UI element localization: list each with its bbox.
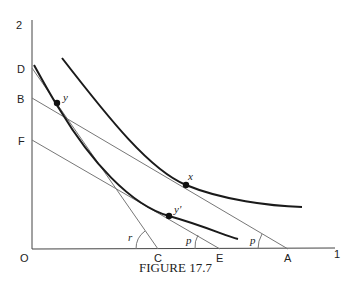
figure-diagram: 2 1 O D B F C E A y x y' r p p FIGURE 17… (0, 0, 354, 294)
figure-caption: FIGURE 17.7 (139, 260, 212, 275)
line-b-a (32, 98, 288, 249)
angle-arc-r (136, 231, 145, 249)
label-angle-p-right: p (249, 234, 256, 246)
label-point-y-prime: y' (173, 203, 182, 215)
label-f: F (18, 135, 25, 147)
x-axis-end-label: 1 (334, 248, 340, 260)
label-point-y: y (62, 91, 68, 103)
point-x (183, 182, 189, 188)
label-angle-r: r (128, 231, 133, 243)
label-b: B (17, 93, 24, 105)
angle-arc-p-left (195, 235, 198, 249)
label-a: A (284, 252, 292, 264)
label-d: D (17, 63, 25, 75)
upper-indifference-curve (62, 58, 302, 207)
point-y (54, 100, 60, 106)
point-y-prime (166, 213, 172, 219)
label-angle-p-left: p (185, 234, 192, 246)
origin-label: O (20, 252, 29, 264)
y-axis-top-label: 2 (16, 19, 22, 31)
x-axis (32, 248, 335, 249)
label-e: E (216, 252, 223, 264)
label-point-x: x (187, 170, 193, 182)
angle-arc-p-right (258, 234, 262, 249)
line-f-e (32, 140, 220, 249)
